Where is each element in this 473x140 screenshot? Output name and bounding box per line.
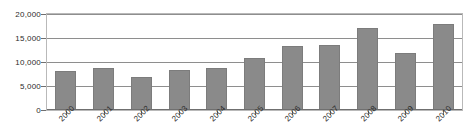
- bar: [244, 58, 265, 110]
- y-tick-label: 10,000: [15, 58, 41, 67]
- bar: [169, 70, 190, 110]
- bar: [55, 71, 76, 110]
- bar: [357, 28, 378, 110]
- y-tick-label: 15,000: [15, 34, 41, 43]
- bar: [395, 53, 416, 110]
- bar: [319, 45, 340, 110]
- bar: [282, 46, 303, 110]
- plot-area: [46, 13, 463, 111]
- bar-chart: 20,00015,00010,0005,0000 200020012002200…: [0, 0, 473, 140]
- gridline: [47, 14, 462, 15]
- bar: [131, 77, 152, 110]
- y-tick-label: 20,000: [15, 10, 41, 19]
- bar: [93, 68, 114, 110]
- bar: [206, 68, 227, 110]
- bar: [433, 24, 454, 110]
- y-tick-label: 5,000: [20, 82, 41, 91]
- gridline: [47, 38, 462, 39]
